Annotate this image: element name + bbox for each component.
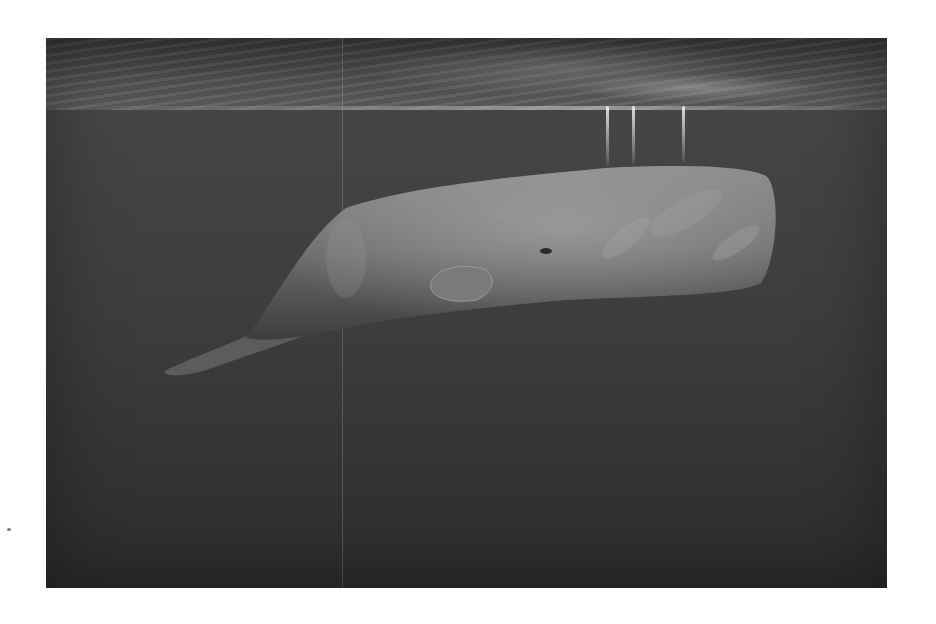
dust-speck (7, 528, 11, 531)
whale-photograph (46, 38, 887, 588)
sperm-whale (46, 38, 887, 588)
